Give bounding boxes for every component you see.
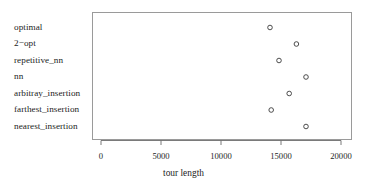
data-point [304, 75, 309, 80]
category-label: nearest_insertion [0, 121, 87, 131]
x-axis-tick-label: 5000 [152, 151, 169, 161]
data-point [304, 124, 309, 129]
x-axis-tick-label: 0 [99, 151, 103, 161]
data-point [269, 108, 274, 113]
x-axis-title: tour length [0, 167, 367, 179]
data-point [277, 58, 282, 63]
data-point [294, 42, 299, 47]
data-point [268, 25, 273, 30]
category-label: nn [0, 71, 87, 81]
dotchart-figure: optimal2−optrepetitive_nnnnarbitray_inse… [0, 0, 367, 194]
category-axis-labels: optimal2−optrepetitive_nnnnarbitray_inse… [0, 0, 90, 194]
x-axis-tick-label: 20000 [330, 151, 351, 161]
data-point [287, 91, 292, 96]
category-label: farthest_insertion [0, 104, 87, 114]
x-axis-tick-label: 10000 [210, 151, 231, 161]
plot-panel [92, 12, 352, 140]
category-label: arbitray_insertion [0, 88, 87, 98]
category-label: optimal [0, 22, 87, 32]
category-label: repetitive_nn [0, 55, 87, 65]
x-axis-tick-label: 15000 [270, 151, 291, 161]
category-label: 2−opt [0, 38, 87, 48]
x-axis: 05000100001500020000 [92, 140, 352, 170]
plot-points-layer [93, 13, 353, 141]
